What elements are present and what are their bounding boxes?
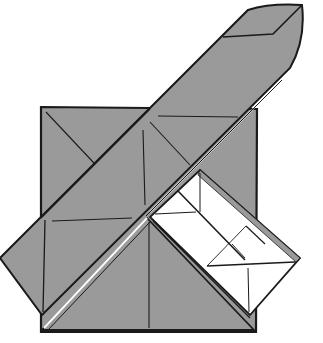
diagram-canvas xyxy=(0,0,323,343)
origami-diagram: origami-fold-step xyxy=(0,0,323,343)
